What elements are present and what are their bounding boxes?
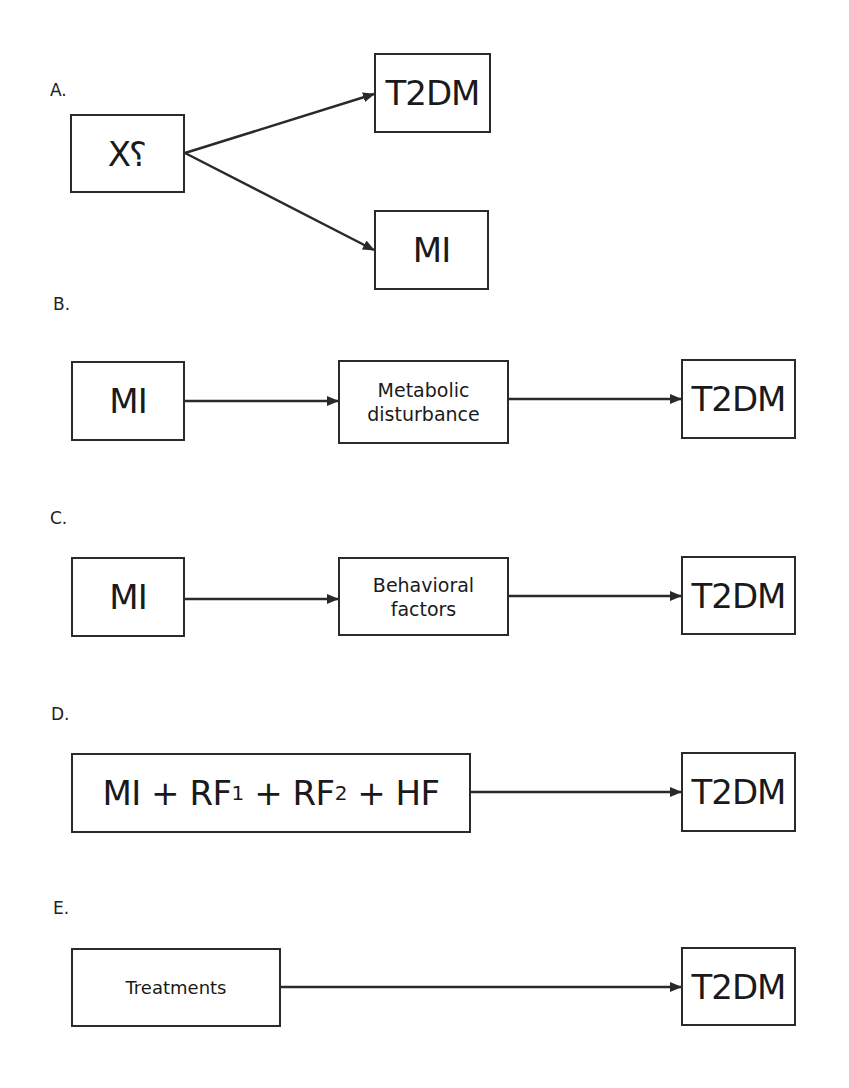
- panel-e-label: E.: [53, 898, 69, 918]
- panel-b-metabolic-disturbance-box: Metabolic disturbance: [338, 360, 509, 444]
- panel-c-behavioral-factors-box: Behavioral factors: [338, 557, 509, 636]
- panel-e-t2dm-box: T2DM: [681, 947, 796, 1026]
- eq-plus-2: +: [254, 773, 282, 813]
- arrow-x-to-mi: [185, 153, 374, 250]
- arrow-x-to-t2dm: [185, 94, 374, 153]
- eq-hf: HF: [395, 773, 439, 813]
- eq-rf2-subscript: 2: [335, 781, 347, 805]
- metabolic-line1: Metabolic: [378, 378, 470, 402]
- eq-rf1-subscript: 1: [232, 781, 244, 805]
- eq-plus-1: +: [151, 773, 179, 813]
- panel-d-combined-factors-box: MI + RF1 + RF2 + HF: [71, 753, 471, 833]
- eq-rf2: RF: [292, 773, 334, 813]
- panel-c-t2dm-box: T2DM: [681, 556, 796, 635]
- panel-d-label: D.: [51, 704, 70, 724]
- panel-b-label: B.: [53, 294, 70, 314]
- behavioral-line2: factors: [391, 597, 457, 621]
- panel-b-t2dm-box: T2DM: [681, 359, 796, 439]
- panel-a-unknown-factor-box: X?: [70, 114, 185, 193]
- eq-rf1: RF: [189, 773, 231, 813]
- metabolic-line2: disturbance: [367, 402, 479, 426]
- panel-d-t2dm-box: T2DM: [681, 752, 796, 832]
- panel-a-label: A.: [50, 80, 67, 100]
- unknown-factor-x: X: [108, 134, 130, 174]
- panel-a-mi-box: MI: [374, 210, 489, 290]
- panel-c-label: C.: [50, 508, 67, 528]
- panel-e-treatments-box: Treatments: [71, 948, 281, 1027]
- panel-c-mi-box: MI: [71, 557, 185, 637]
- panel-b-mi-box: MI: [71, 361, 185, 441]
- panel-a-t2dm-box: T2DM: [374, 53, 491, 133]
- eq-plus-3: +: [357, 773, 385, 813]
- eq-mi: MI: [102, 773, 140, 813]
- behavioral-line1: Behavioral: [373, 573, 474, 597]
- reversed-question-mark: ?: [130, 134, 147, 174]
